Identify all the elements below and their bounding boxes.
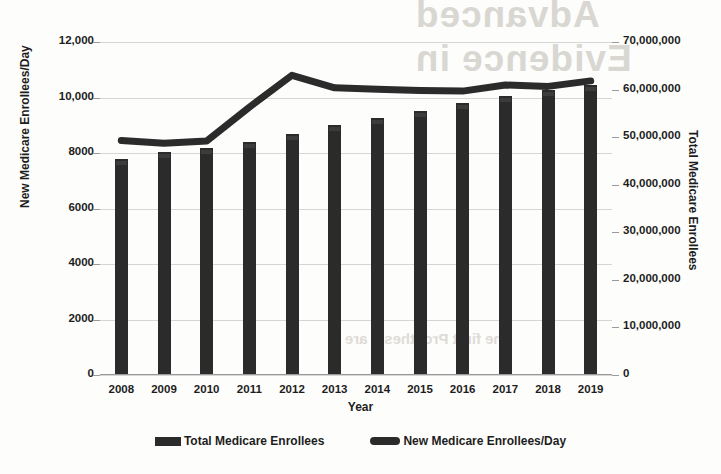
bar[interactable]	[456, 103, 469, 375]
x-axis-tick-label: 2015	[398, 383, 442, 395]
y-axis-right-tick-mark	[612, 327, 619, 328]
legend-label-new-medicare-enrollees-per-day: New Medicare Enrollees/Day	[403, 434, 566, 448]
bar[interactable]	[584, 85, 597, 375]
y-axis-right-tick-mark	[612, 90, 619, 91]
legend-item-total-medicare-enrollees[interactable]: Total Medicare Enrollees	[155, 434, 325, 448]
y-axis-left-tick-mark	[93, 375, 100, 376]
plot-area	[100, 42, 612, 375]
y-axis-right-tick-label: 10,000,000	[623, 319, 681, 331]
gridline	[100, 375, 612, 376]
x-axis-tick-label: 2016	[441, 383, 485, 395]
x-axis-baseline	[100, 374, 612, 375]
x-axis-tick-label: 2014	[355, 383, 399, 395]
y-axis-right-tick-label: 20,000,000	[623, 272, 681, 284]
y-axis-left-tick-label: 10,000	[59, 90, 94, 102]
y-axis-left-title: New Medicare Enrollees/Day	[18, 45, 32, 208]
x-axis-tick-label: 2011	[227, 383, 271, 395]
y-axis-right-tick-label: 60,000,000	[623, 82, 681, 94]
y-axis-left-tick-label: 6000	[68, 201, 94, 213]
x-axis-title: Year	[0, 400, 721, 414]
x-axis-tick-label: 2012	[270, 383, 314, 395]
y-axis-left-tick-mark	[93, 42, 100, 43]
y-axis-right-tick-mark	[612, 280, 619, 281]
x-axis-tick-label: 2018	[526, 383, 570, 395]
y-axis-left-tick-label: 12,000	[59, 34, 94, 46]
bar[interactable]	[286, 134, 299, 375]
x-axis-tick-label: 2017	[483, 383, 527, 395]
x-axis-tick-label: 2013	[313, 383, 357, 395]
y-axis-left-tick-label: 4000	[68, 256, 94, 268]
bar[interactable]	[499, 96, 512, 375]
line-swatch-icon	[370, 437, 400, 445]
y-axis-left-tick-mark	[93, 264, 100, 265]
y-axis-right-tick-mark	[612, 42, 619, 43]
bar[interactable]	[158, 152, 171, 375]
bleed-through-text-line1: Advanced	[415, 0, 600, 36]
legend-item-new-medicare-enrollees-per-day[interactable]: New Medicare Enrollees/Day	[370, 434, 566, 448]
bar[interactable]	[200, 148, 213, 375]
gridline	[100, 153, 612, 154]
y-axis-left-tick-label: 8000	[68, 145, 94, 157]
chart-legend: Total Medicare Enrollees New Medicare En…	[0, 434, 721, 448]
chart-page: Advanced Evidence in the first Prosthesi…	[0, 0, 721, 474]
y-axis-right-tick-mark	[612, 185, 619, 186]
y-axis-left-tick-mark	[93, 98, 100, 99]
bar[interactable]	[414, 111, 427, 375]
y-axis-right-tick-mark	[612, 137, 619, 138]
y-axis-left-tick-label: 2000	[68, 312, 94, 324]
y-axis-left-tick-mark	[93, 320, 100, 321]
y-axis-right-tick-label: 70,000,000	[623, 34, 681, 46]
gridline	[100, 98, 612, 99]
gridline	[100, 264, 612, 265]
bar[interactable]	[328, 125, 341, 375]
y-axis-left-tick-mark	[93, 209, 100, 210]
bar[interactable]	[371, 118, 384, 375]
x-axis-tick-label: 2008	[99, 383, 143, 395]
y-axis-right-tick-label: 50,000,000	[623, 129, 681, 141]
legend-label-total-medicare-enrollees: Total Medicare Enrollees	[184, 434, 325, 448]
gridline	[100, 42, 612, 43]
gridline	[100, 209, 612, 210]
x-axis-tick-label: 2010	[185, 383, 229, 395]
x-axis-tick-label: 2009	[142, 383, 186, 395]
y-axis-left-tick-mark	[93, 153, 100, 154]
y-axis-right-tick-label: 0	[623, 367, 629, 379]
bar[interactable]	[115, 159, 128, 375]
bar[interactable]	[542, 90, 555, 375]
x-axis-tick-label: 2019	[569, 383, 613, 395]
y-axis-right-tick-label: 40,000,000	[623, 177, 681, 189]
bar-swatch-icon	[155, 437, 181, 446]
y-axis-left-tick-label: 0	[88, 367, 94, 379]
y-axis-right-tick-mark	[612, 232, 619, 233]
gridline	[100, 320, 612, 321]
bar[interactable]	[243, 142, 256, 375]
y-axis-right-tick-label: 30,000,000	[623, 224, 681, 236]
y-axis-right-title: Total Medicare Enrollees	[686, 130, 700, 271]
y-axis-right-tick-mark	[612, 375, 619, 376]
